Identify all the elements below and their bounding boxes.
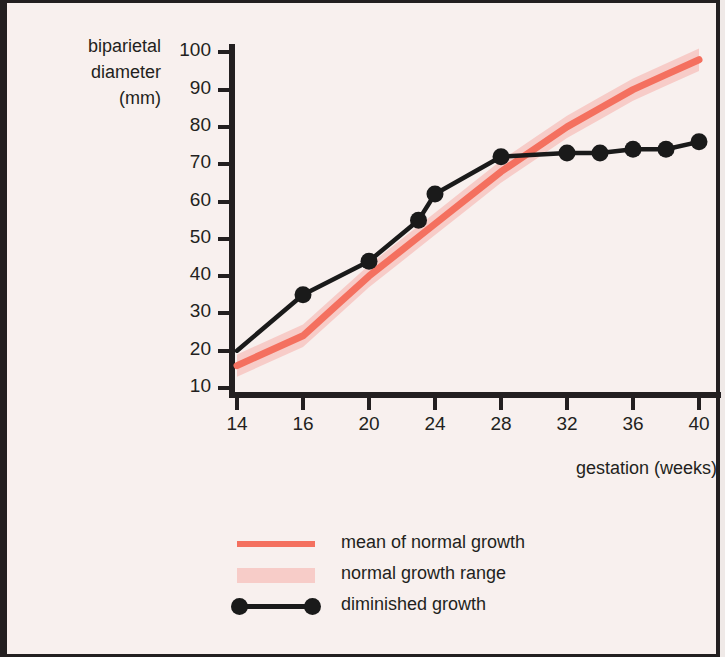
legend-key-mean-line <box>229 529 327 560</box>
y-axis-title-line2: diameter <box>35 59 161 85</box>
y-tick-70 <box>218 162 230 166</box>
y-tick-label-90: 90 <box>159 77 211 99</box>
mean-normal-growth-line <box>237 60 699 366</box>
x-tick-14 <box>235 397 239 410</box>
x-tick-28 <box>499 397 503 410</box>
x-tick-16 <box>301 397 305 410</box>
x-tick-label-36: 36 <box>610 413 656 435</box>
data-point <box>493 148 510 165</box>
x-tick-label-24: 24 <box>412 413 458 435</box>
x-tick-label-16: 16 <box>280 413 326 435</box>
legend-item-mean: mean of normal growth <box>229 529 649 560</box>
data-point <box>295 286 312 303</box>
y-tick-label-20: 20 <box>159 338 211 360</box>
legend-item-range: normal growth range <box>229 560 649 591</box>
data-point <box>361 253 378 270</box>
y-axis-title: biparietal diameter (mm) <box>35 33 161 111</box>
y-tick-80 <box>218 125 230 129</box>
chart-canvas: biparietal diameter (mm) 102030405060708… <box>7 3 725 657</box>
x-tick-20 <box>367 397 371 410</box>
legend-key-diminished-line <box>229 591 327 622</box>
y-tick-40 <box>218 274 230 278</box>
legend-label-diminished: diminished growth <box>341 594 486 615</box>
data-point <box>559 145 576 162</box>
y-axis-title-line3: (mm) <box>35 85 161 111</box>
y-axis-title-line1: biparietal <box>35 33 161 59</box>
y-tick-60 <box>218 200 230 204</box>
y-tick-label-100: 100 <box>159 39 211 61</box>
data-point <box>658 141 675 158</box>
y-tick-90 <box>218 88 230 92</box>
y-tick-50 <box>218 237 230 241</box>
mean-line-swatch <box>237 541 315 547</box>
x-tick-label-20: 20 <box>346 413 392 435</box>
legend-label-range: normal growth range <box>341 563 506 584</box>
y-tick-20 <box>218 349 230 353</box>
x-tick-36 <box>631 397 635 410</box>
data-point <box>592 145 609 162</box>
y-tick-label-30: 30 <box>159 300 211 322</box>
x-tick-24 <box>433 397 437 410</box>
x-tick-label-14: 14 <box>214 413 260 435</box>
legend-label-mean: mean of normal growth <box>341 532 525 553</box>
x-axis-title: gestation (weeks) <box>477 458 717 479</box>
x-tick-40 <box>697 397 701 410</box>
data-point <box>691 133 708 150</box>
normal-growth-range-band <box>237 49 699 377</box>
diminished-marker-swatch-right <box>304 598 321 615</box>
y-tick-30 <box>218 311 230 315</box>
legend-item-diminished: diminished growth <box>229 591 649 622</box>
x-tick-32 <box>565 397 569 410</box>
diminished-growth-line <box>237 142 699 351</box>
y-tick-10 <box>218 386 230 390</box>
x-tick-label-28: 28 <box>478 413 524 435</box>
x-tick-label-32: 32 <box>544 413 590 435</box>
diminished-marker-swatch-left <box>231 598 248 615</box>
data-point <box>410 212 427 229</box>
y-tick-100 <box>218 50 230 54</box>
y-tick-label-60: 60 <box>159 189 211 211</box>
y-tick-label-80: 80 <box>159 114 211 136</box>
legend: mean of normal growth normal growth rang… <box>229 529 649 622</box>
data-point <box>625 141 642 158</box>
y-tick-label-70: 70 <box>159 151 211 173</box>
range-band-swatch <box>237 568 315 583</box>
data-point <box>427 186 444 203</box>
y-tick-label-40: 40 <box>159 263 211 285</box>
y-tick-label-50: 50 <box>159 226 211 248</box>
y-tick-label-10: 10 <box>159 375 211 397</box>
legend-key-range-band <box>229 560 327 591</box>
x-tick-label-40: 40 <box>676 413 722 435</box>
y-axis-line <box>229 44 235 398</box>
diminished-growth-markers <box>295 133 708 303</box>
